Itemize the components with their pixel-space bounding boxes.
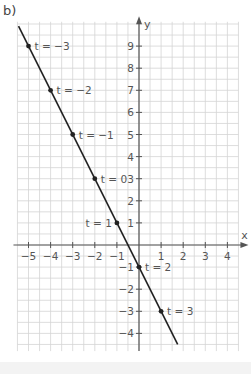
data-point — [70, 132, 75, 137]
y-tick-label: 3 — [127, 173, 134, 185]
x-tick-label: 4 — [224, 250, 231, 262]
y-axis-label: y — [144, 18, 151, 31]
x-tick-label: −3 — [65, 250, 80, 262]
y-tick-label: 7 — [127, 84, 134, 96]
chart-canvas: xy−5−4−3−2−11234−4−3−2−1123456789t = −3t… — [0, 0, 251, 374]
x-tick-label: 2 — [180, 250, 187, 262]
x-tick-label: 3 — [202, 250, 209, 262]
data-point — [159, 309, 164, 314]
x-axis-label: x — [241, 229, 248, 242]
y-tick-label: −4 — [119, 327, 135, 339]
y-tick-label: 5 — [127, 129, 134, 141]
x-tick-label: −5 — [21, 250, 36, 262]
point-label: t = 2 — [145, 261, 171, 273]
y-tick-label: −3 — [119, 305, 134, 317]
y-tick-label: −2 — [119, 283, 134, 295]
page-bottom-edge — [0, 362, 251, 374]
data-point — [115, 221, 120, 226]
x-axis-arrow-icon — [240, 242, 248, 248]
y-tick-label: 2 — [127, 195, 134, 207]
y-axis-arrow-icon — [136, 16, 142, 24]
y-tick-label: 4 — [127, 151, 134, 163]
point-label: t = 0 — [101, 173, 127, 185]
y-tick-label: −1 — [119, 261, 134, 273]
x-tick-label: −4 — [43, 250, 59, 262]
point-label: t = 1 — [86, 217, 112, 229]
point-label: t = −2 — [57, 84, 92, 96]
point-label: t = 3 — [167, 305, 193, 317]
y-tick-label: 9 — [127, 40, 134, 52]
data-point — [92, 176, 97, 181]
parametric-line — [19, 26, 178, 344]
y-tick-label: 6 — [127, 106, 134, 118]
x-tick-label: −2 — [87, 250, 102, 262]
data-point — [26, 44, 31, 49]
data-point — [48, 88, 53, 93]
y-tick-label: 1 — [127, 217, 134, 229]
point-label: t = −3 — [35, 40, 70, 52]
y-tick-label: 8 — [127, 62, 134, 74]
data-point — [137, 265, 142, 270]
point-label: t = −1 — [79, 129, 114, 141]
